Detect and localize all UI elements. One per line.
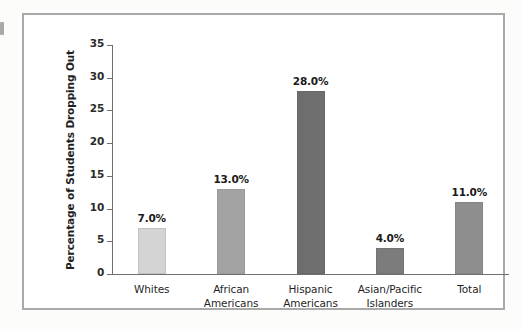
x-axis-category-label-line: African [191,283,270,297]
y-axis-tick-mark [107,45,113,46]
bar-value-label: 4.0% [376,232,404,244]
plot-area: 05101520253035 7.0%13.0%28.0%4.0%11.0% W… [112,45,509,274]
x-axis-category-label-line: Americans [271,297,350,311]
bar: 7.0% [138,228,166,274]
y-axis-tick-mark [107,110,113,111]
x-axis-category-label: HispanicAmericans [271,283,350,310]
x-axis-category-label-line: Asian/Pacific [350,283,429,297]
y-axis-line [112,45,113,274]
bar-value-label: 11.0% [452,186,487,198]
x-axis-category-label: Total [430,283,509,297]
x-axis-line [112,274,509,275]
y-axis-tick-mark [107,241,113,242]
y-axis-tick-mark [107,143,113,144]
bar-value-label: 7.0% [138,212,166,224]
page-background: Percentage of Students Dropping Out 0510… [0,0,521,329]
y-axis-tick-mark [107,274,113,275]
bar-value-label: 28.0% [293,75,328,87]
y-axis-tick-label: 5 [97,233,104,245]
x-axis-category-label-line: Hispanic [271,283,350,297]
bar: 28.0% [297,91,325,274]
bar: 11.0% [455,202,483,274]
bar-value-label: 13.0% [213,173,248,185]
figure-frame: Percentage of Students Dropping Out 0510… [22,13,505,310]
x-axis-category-label: AfricanAmericans [191,283,270,310]
x-axis-category-label-line: Total [430,283,509,297]
y-axis-tick-label: 10 [90,201,104,213]
y-axis-tick-mark [107,176,113,177]
y-axis-title: Percentage of Students Dropping Out [62,45,78,274]
y-axis-tick-label: 20 [90,135,104,147]
x-axis-category-label-line: Whites [112,283,191,297]
y-axis-tick-label: 30 [90,70,104,82]
bar: 4.0% [376,248,404,274]
y-axis-tick-label: 25 [90,102,104,114]
y-axis-tick-label: 35 [90,37,104,49]
x-axis-category-label-line: Americans [191,297,270,311]
y-axis-tick-label: 15 [90,168,104,180]
bar: 13.0% [217,189,245,274]
page-edge-artifact [0,22,4,35]
x-axis-category-label-line: Islanders [350,297,429,311]
x-axis-category-label: Whites [112,283,191,297]
y-axis-tick-label: 0 [97,266,104,278]
x-axis-category-label: Asian/PacificIslanders [350,283,429,310]
y-axis-title-text: Percentage of Students Dropping Out [64,49,76,269]
y-axis-tick-mark [107,209,113,210]
y-axis-tick-mark [107,78,113,79]
